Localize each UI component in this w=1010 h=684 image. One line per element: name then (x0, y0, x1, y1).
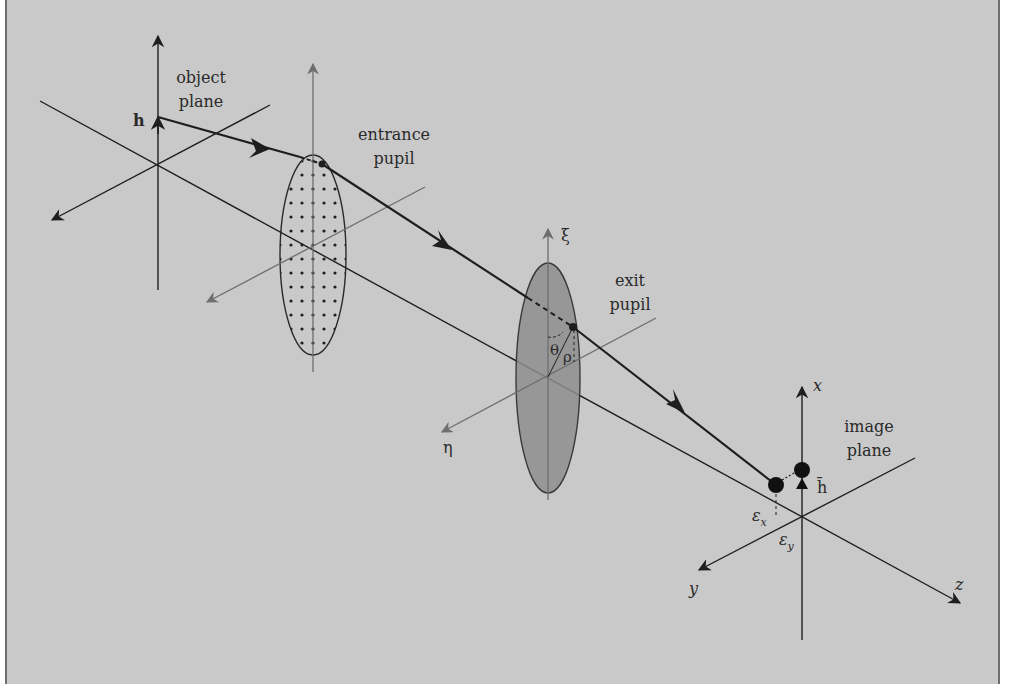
image-plane-label-1: image (844, 417, 894, 436)
optical-axis (40, 101, 960, 603)
entrance-pupil-label-1: entrance (358, 125, 430, 144)
object-plane-label-1: object (176, 68, 226, 87)
optical-diagram: object plane entrance pupil exit pupil i… (0, 0, 1010, 684)
exit-pupil (442, 229, 656, 500)
entrance-pupil (207, 64, 425, 372)
object-height-label: h (133, 111, 145, 130)
exit-pupil-label-1: exit (615, 271, 646, 290)
xi-axis-label: ξ (561, 226, 570, 245)
image-plane-label-2: plane (847, 441, 892, 460)
object-plane-label-2: plane (179, 92, 224, 111)
epsilon-y-label: εy (779, 530, 795, 553)
y-axis-label: y (688, 579, 699, 598)
z-axis-label: z (954, 575, 964, 594)
rho-label: ρ (563, 348, 572, 366)
epsilon-x-label: εx (752, 506, 768, 529)
ray-path (158, 117, 810, 518)
exit-pupil-label-2: pupil (609, 295, 650, 314)
entrance-pupil-label-2: pupil (373, 149, 414, 168)
eta-axis-label: η (443, 438, 453, 457)
x-axis-label: x (813, 376, 822, 395)
image-height-label: h̄ (817, 476, 828, 497)
theta-label: θ (550, 341, 559, 359)
object-plane-axes (52, 36, 270, 290)
